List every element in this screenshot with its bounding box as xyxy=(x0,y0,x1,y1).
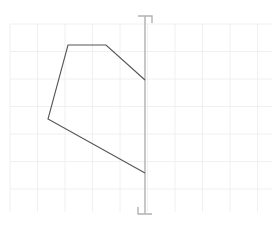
drawing-canvas[interactable] xyxy=(0,0,279,231)
drawing-surface[interactable] xyxy=(0,0,279,231)
canvas-background xyxy=(0,0,279,231)
